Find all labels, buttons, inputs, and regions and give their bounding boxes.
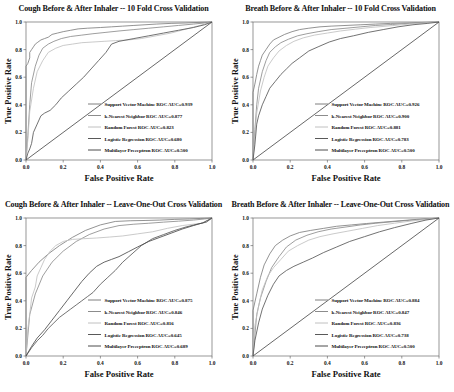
x-tick-label: 0.4 — [324, 360, 331, 366]
x-tick-label: 0.8 — [398, 164, 405, 170]
plot-area: 0.00.20.40.60.81.00.00.20.40.60.81.0Fals… — [0, 196, 227, 392]
y-tick-label: 0.4 — [15, 102, 22, 108]
panel-breath-10fold: Breath Before & After Inhaler -- 10 Fold… — [227, 0, 454, 196]
y-tick-label: 0.8 — [242, 243, 249, 249]
panel-cough-loo: Cough Before & After Inhaler -- Leave-On… — [0, 196, 227, 392]
legend-label: Random Forest ROC AUC=0.823 — [105, 125, 175, 130]
panel-cough-10fold: Cough Before & After Inhaler -- 10 Fold … — [0, 0, 227, 196]
roc-svg-0: 0.00.20.40.60.81.00.00.20.40.60.81.0Fals… — [0, 0, 227, 196]
x-tick-label: 0.2 — [287, 360, 294, 366]
y-tick-label: 0.4 — [242, 102, 249, 108]
legend-label: Multilayer Preceptron ROC AUC=0.500 — [332, 344, 416, 349]
y-tick-label: 1.0 — [15, 215, 22, 221]
plot-area: 0.00.20.40.60.81.00.00.20.40.60.81.0Fals… — [227, 196, 454, 392]
y-tick-label: 0.2 — [15, 325, 22, 331]
y-tick-label: 0.2 — [15, 129, 22, 135]
y-tick-label: 0.8 — [15, 47, 22, 53]
y-axis-label: True Positive Rate — [4, 58, 13, 124]
roc-figure-grid: Cough Before & After Inhaler -- 10 Fold … — [0, 0, 454, 392]
legend-label: Multilayer Preceptron ROC AUC=0.500 — [105, 148, 189, 153]
legend-label: Logistic Regression ROC AUC=0.783 — [332, 137, 410, 142]
x-axis-label: False Positive Rate — [311, 369, 380, 379]
x-axis-label: False Positive Rate — [84, 173, 153, 183]
x-tick-label: 0.2 — [60, 360, 67, 366]
y-tick-label: 0.6 — [15, 74, 22, 80]
y-axis-label: True Positive Rate — [231, 254, 240, 320]
y-axis-label: True Positive Rate — [4, 254, 13, 320]
x-tick-label: 0.0 — [250, 360, 257, 366]
y-tick-label: 1.0 — [15, 19, 22, 25]
legend-label: k-Nearest Neighbor ROC AUC=0.900 — [332, 114, 410, 119]
x-axis-label: False Positive Rate — [311, 173, 380, 183]
legend-label: k-Nearest Neighbor ROC AUC=0.877 — [105, 114, 183, 119]
x-tick-label: 0.2 — [287, 164, 294, 170]
legend-label: Support Vector Machine ROC AUC=0.939 — [105, 102, 193, 107]
x-tick-label: 0.2 — [60, 164, 67, 170]
legend-label: Logistic Regression ROC AUC=0.738 — [332, 333, 410, 338]
y-tick-label: 0.0 — [15, 157, 22, 163]
y-axis-label: True Positive Rate — [231, 58, 240, 124]
legend-label: Support Vector Machine ROC AUC=0.875 — [105, 298, 193, 303]
y-tick-label: 0.0 — [242, 353, 249, 359]
x-tick-label: 0.0 — [23, 164, 30, 170]
legend-label: k-Nearest Neighbor ROC AUC=0.846 — [105, 310, 183, 315]
plot-area: 0.00.20.40.60.81.00.00.20.40.60.81.0Fals… — [0, 0, 227, 196]
legend-label: Multilayer Preceptron ROC AUC=0.689 — [105, 344, 189, 349]
y-tick-label: 0.0 — [15, 353, 22, 359]
x-axis-label: False Positive Rate — [84, 369, 153, 379]
legend-label: Logistic Regression ROC AUC=0.680 — [105, 137, 183, 142]
x-tick-label: 0.6 — [361, 360, 368, 366]
legend-label: Random Forest ROC AUC=0.881 — [332, 125, 402, 130]
y-tick-label: 0.4 — [242, 298, 249, 304]
legend-label: Random Forest ROC AUC=0.836 — [332, 321, 402, 326]
x-tick-label: 0.8 — [398, 360, 405, 366]
x-tick-label: 0.8 — [171, 164, 178, 170]
y-tick-label: 0.4 — [15, 298, 22, 304]
legend-label: Random Forest ROC AUC=0.816 — [105, 321, 175, 326]
x-tick-label: 0.0 — [23, 360, 30, 366]
y-tick-label: 0.6 — [242, 74, 249, 80]
y-tick-label: 1.0 — [242, 19, 249, 25]
legend-label: Multilayer Preceptron ROC AUC=0.500 — [332, 148, 416, 153]
x-tick-label: 0.8 — [171, 360, 178, 366]
x-tick-label: 0.0 — [250, 164, 257, 170]
y-tick-label: 0.2 — [242, 325, 249, 331]
roc-svg-3: 0.00.20.40.60.81.00.00.20.40.60.81.0Fals… — [227, 196, 454, 392]
y-tick-label: 0.8 — [15, 243, 22, 249]
roc-svg-2: 0.00.20.40.60.81.00.00.20.40.60.81.0Fals… — [0, 196, 227, 392]
x-tick-label: 0.6 — [361, 164, 368, 170]
x-tick-label: 0.4 — [97, 360, 104, 366]
panel-breath-loo: Breath Before & After Inhaler -- Leave-O… — [227, 196, 454, 392]
plot-area: 0.00.20.40.60.81.00.00.20.40.60.81.0Fals… — [227, 0, 454, 196]
y-tick-label: 0.0 — [242, 157, 249, 163]
y-tick-label: 0.2 — [242, 129, 249, 135]
x-tick-label: 1.0 — [436, 164, 443, 170]
x-tick-label: 1.0 — [209, 164, 216, 170]
x-tick-label: 0.6 — [134, 360, 141, 366]
legend-label: Support Vector Machine ROC AUC=0.884 — [332, 298, 420, 303]
y-tick-label: 0.6 — [15, 270, 22, 276]
legend-label: k-Nearest Neighbor ROC AUC=0.847 — [332, 310, 410, 315]
x-tick-label: 0.4 — [97, 164, 104, 170]
x-tick-label: 1.0 — [436, 360, 443, 366]
roc-svg-1: 0.00.20.40.60.81.00.00.20.40.60.81.0Fals… — [227, 0, 454, 196]
y-tick-label: 1.0 — [242, 215, 249, 221]
x-tick-label: 0.6 — [134, 164, 141, 170]
legend-label: Support Vector Machine ROC AUC=0.926 — [332, 102, 420, 107]
x-tick-label: 0.4 — [324, 164, 331, 170]
y-tick-label: 0.8 — [242, 47, 249, 53]
legend-label: Logistic Regression ROC AUC=0.645 — [105, 333, 183, 338]
y-tick-label: 0.6 — [242, 270, 249, 276]
x-tick-label: 1.0 — [209, 360, 216, 366]
